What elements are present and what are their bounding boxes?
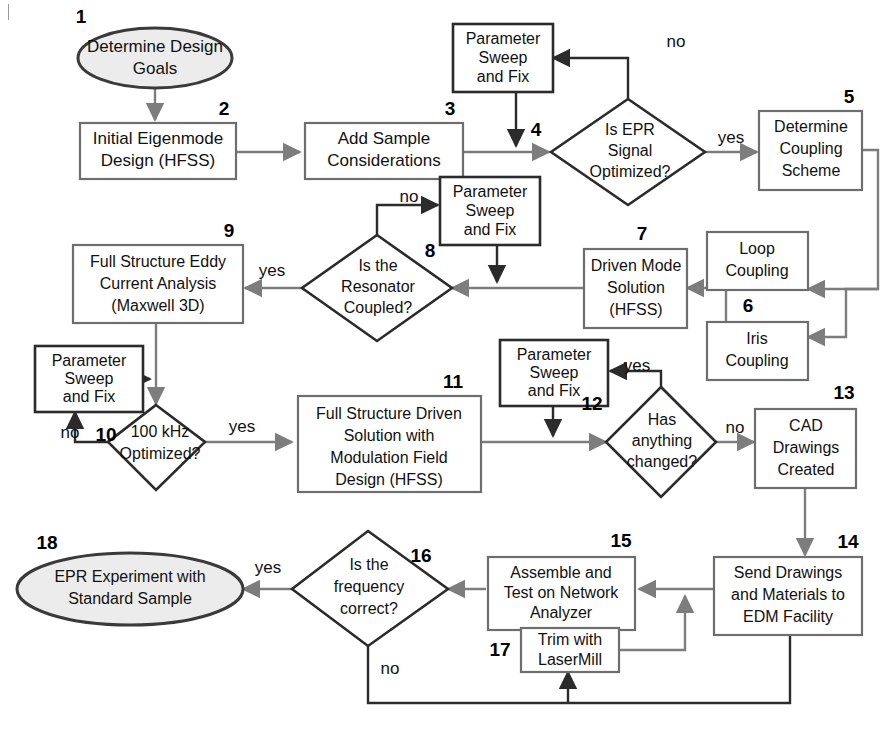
node-label-line1: Parameter xyxy=(453,183,528,200)
node-label-line1: Add Sample xyxy=(338,129,431,148)
node-label-line2: Goals xyxy=(133,59,177,78)
step-number-9: 9 xyxy=(224,220,235,241)
node-label-line3: and Fix xyxy=(63,388,115,405)
step-number-18: 18 xyxy=(36,532,57,553)
step-number-17: 17 xyxy=(489,639,510,660)
node-label-line2: and Materials to xyxy=(731,586,845,603)
step-number-3: 3 xyxy=(445,98,456,119)
node-label-line1: Parameter xyxy=(52,352,127,369)
node-send-drawings-to-edm[interactable]: Send Drawings and Materials to EDM Facil… xyxy=(714,531,862,635)
node-loop-coupling[interactable]: Loop Coupling xyxy=(707,232,808,290)
edge-label-yes-10: yes xyxy=(229,417,255,436)
node-label-line3: Analyzer xyxy=(530,604,593,621)
node-label-line1: Parameter xyxy=(466,30,541,47)
node-label-line3: (Maxwell 3D) xyxy=(111,297,204,314)
node-label-line3: Created xyxy=(778,461,835,478)
node-label-line2: Current Analysis xyxy=(100,275,217,292)
node-label-line1: Driven Mode xyxy=(591,257,682,274)
node-label-line3: Optimized? xyxy=(590,163,671,180)
node-label-line2: Design (HFSS) xyxy=(101,151,215,170)
step-number-10: 10 xyxy=(95,424,116,445)
node-label-line2: Sweep xyxy=(479,49,528,66)
node-label-line4: Design (HFSS) xyxy=(335,471,443,488)
node-label-line3: changed? xyxy=(627,453,697,470)
node-label-line3: correct? xyxy=(340,600,398,617)
node-determine-design-goals[interactable]: Determine Design Goals 1 xyxy=(76,6,232,88)
node-label-line1: Is the xyxy=(358,257,397,274)
node-label-line1: Iris xyxy=(746,330,767,347)
node-cad-drawings-created[interactable]: CAD Drawings Created 13 xyxy=(755,382,856,488)
node-label-line2: Sweep xyxy=(466,202,515,219)
flowchart-svg: Determine Design Goals 1 Initial Eigenmo… xyxy=(0,0,892,732)
node-label-line1: Assemble and xyxy=(510,564,611,581)
node-label-line1: Loop xyxy=(739,240,775,257)
node-label-line2: Test on Network xyxy=(504,584,620,601)
node-label-line2: Solution with xyxy=(344,427,435,444)
node-100khz-optimized[interactable]: 100 kHz Optimized? 10 xyxy=(95,405,205,490)
node-label-line1: Initial Eigenmode xyxy=(93,129,223,148)
node-assemble-and-test[interactable]: Assemble and Test on Network Analyzer 15 xyxy=(488,530,635,630)
step-number-15: 15 xyxy=(610,530,632,551)
node-full-structure-driven-solution[interactable]: Full Structure Driven Solution with Modu… xyxy=(298,371,481,492)
node-label-line2: Considerations xyxy=(327,151,440,170)
node-label-line1: Is EPR xyxy=(605,121,655,138)
edge-label-no-16: no xyxy=(381,659,400,678)
node-parameter-sweep-and-fix-1[interactable]: Parameter Sweep and Fix xyxy=(453,24,553,92)
edge-label-no-8: no xyxy=(400,187,419,206)
edge-5-to-iris-coupling xyxy=(808,289,878,337)
node-driven-mode-solution[interactable]: Driven Mode Solution (HFSS) 7 xyxy=(584,223,687,328)
node-add-sample-considerations[interactable]: Add Sample Considerations 3 xyxy=(305,98,463,179)
node-label-line1: EPR Experiment with xyxy=(54,568,205,585)
step-number-8: 8 xyxy=(425,240,436,261)
node-label-line1: Send Drawings xyxy=(734,564,843,581)
node-label-line2: Optimized? xyxy=(120,445,201,462)
node-label-line1: Is the xyxy=(349,556,388,573)
step-number-16: 16 xyxy=(410,545,431,566)
edge-label-no-4: no xyxy=(667,32,686,51)
node-label-line2: Coupling xyxy=(725,352,788,369)
node-trim-with-lasermill[interactable]: Trim with LaserMill 17 xyxy=(489,628,619,672)
node-label-line3: Coupled? xyxy=(344,299,413,316)
step-number-4: 4 xyxy=(531,119,542,140)
step-number-5: 5 xyxy=(844,86,855,107)
node-label-line2: Signal xyxy=(608,142,652,159)
node-iris-coupling[interactable]: Iris Coupling 6 xyxy=(707,295,808,380)
edge-label-yes-4: yes xyxy=(718,128,744,147)
step-number-6: 6 xyxy=(743,295,754,316)
step-number-2: 2 xyxy=(219,98,230,119)
node-label-line1: CAD xyxy=(789,417,823,434)
node-label-line1: Full Structure Eddy xyxy=(90,253,226,270)
node-label-line3: and Fix xyxy=(464,221,516,238)
edge-4-no-to-ps1 xyxy=(553,58,628,102)
node-label-line3: and Fix xyxy=(477,68,529,85)
node-is-resonator-coupled[interactable]: Is the Resonator Coupled? 8 xyxy=(302,235,452,341)
edge-8-no-to-ps2 xyxy=(377,205,438,240)
terminator-shape xyxy=(17,553,243,625)
node-epr-experiment-standard-sample[interactable]: EPR Experiment with Standard Sample 18 xyxy=(17,532,243,625)
step-number-12: 12 xyxy=(581,393,602,414)
node-parameter-sweep-and-fix-3[interactable]: Parameter Sweep and Fix xyxy=(35,346,143,412)
node-parameter-sweep-and-fix-2[interactable]: Parameter Sweep and Fix xyxy=(440,177,540,245)
step-number-1: 1 xyxy=(76,6,87,27)
node-label-line2: LaserMill xyxy=(538,651,602,668)
edge-label-no-10: no xyxy=(61,423,80,442)
node-is-epr-signal-optimized[interactable]: Is EPR Signal Optimized? 4 xyxy=(531,99,705,205)
node-is-frequency-correct[interactable]: Is the frequency correct? 16 xyxy=(292,531,448,646)
flowchart-canvas: Determine Design Goals 1 Initial Eigenmo… xyxy=(0,0,892,732)
node-label-line2: Coupling xyxy=(725,262,788,279)
node-label-line3: and Fix xyxy=(528,382,580,399)
node-full-structure-eddy-current-analysis[interactable]: Full Structure Eddy Current Analysis (Ma… xyxy=(73,220,243,323)
step-number-14: 14 xyxy=(837,531,859,552)
node-label-line2: anything xyxy=(632,432,693,449)
node-label-line1: Parameter xyxy=(517,346,592,363)
node-initial-eigenmode-design[interactable]: Initial Eigenmode Design (HFSS) 2 xyxy=(80,98,236,179)
node-determine-coupling-scheme[interactable]: Determine Coupling Scheme 5 xyxy=(759,86,862,190)
node-label-line1: 100 kHz xyxy=(131,423,190,440)
node-label-line2: Coupling xyxy=(779,140,842,157)
node-label-line2: Drawings xyxy=(773,439,840,456)
node-label-line2: Solution xyxy=(607,279,665,296)
node-label-line2: Sweep xyxy=(65,370,114,387)
node-label-line1: Full Structure Driven xyxy=(316,405,462,422)
edge-label-no-12: no xyxy=(726,418,745,437)
node-label-line1: Has xyxy=(648,411,676,428)
